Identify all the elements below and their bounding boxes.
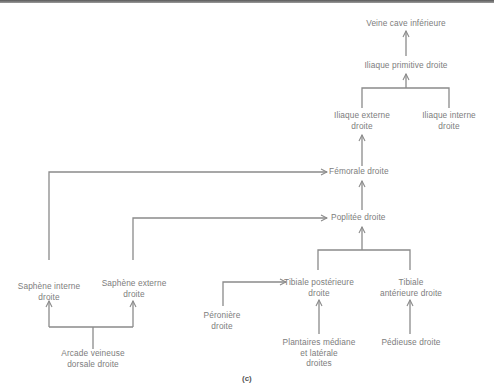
node-pedieuse: Pédieuse droite [368,337,454,348]
node-tibiale-anterieure: Tibiale antérieure droite [368,277,454,298]
node-iliaque-interne: Iliaque interne droite [409,110,489,131]
node-veine-cave: Veine cave inférieure [346,18,466,29]
node-saphene-interne: Saphène interne droite [4,281,94,302]
node-arcade: Arcade veineuse dorsale droite [48,348,138,369]
node-saphene-externe: Saphène externe droite [89,278,179,299]
node-tibiale-posterieure: Tibiale postérieure droite [274,277,364,298]
node-femorale: Fémorale droite [329,166,404,177]
node-poplitee: Poplitée droite [331,212,406,223]
node-plantaires: Plantaires médiane et latérale droites [274,337,364,369]
node-iliaque-primitive: Iliaque primitive droite [346,60,466,71]
figure-caption: (c) [242,374,252,383]
node-peroniere: Péronière droite [192,310,252,331]
node-iliaque-externe: Iliaque externe droite [322,110,402,131]
